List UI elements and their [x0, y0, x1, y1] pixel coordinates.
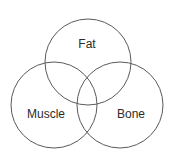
venn-diagram: Fat Muscle Bone: [0, 0, 170, 160]
muscle-label: Muscle: [27, 107, 65, 121]
fat-label: Fat: [78, 37, 96, 51]
bone-label: Bone: [117, 107, 145, 121]
